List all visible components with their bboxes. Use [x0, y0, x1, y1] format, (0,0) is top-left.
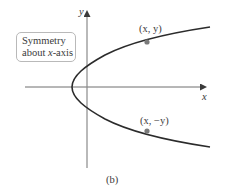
point-x-neg-y-label: (x, −y): [140, 115, 169, 127]
callout-line-2: about x-axis: [22, 47, 75, 59]
diagram-canvas: [0, 0, 226, 191]
callout-line-2-suffix: -axis: [53, 47, 73, 58]
figure-caption: (b): [106, 174, 118, 185]
parabola-symmetry-diagram: y x (x, y) (x, −y) Symmetry about x-axis…: [0, 0, 226, 191]
point-x-y-label: (x, y): [139, 23, 162, 35]
x-axis-label: x: [202, 91, 207, 103]
point-x-y: [144, 39, 149, 44]
y-axis-label: y: [79, 6, 84, 18]
callout-line-2-prefix: about: [22, 47, 48, 58]
callout-line-1: Symmetry: [22, 35, 75, 47]
point-x-neg-y: [144, 128, 149, 133]
symmetry-callout: Symmetry about x-axis: [16, 32, 76, 62]
